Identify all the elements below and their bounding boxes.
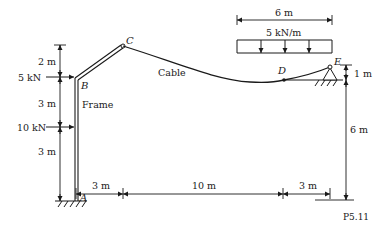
figure-id-label: P5.11 <box>343 212 369 222</box>
dim-label-right-top: 1 m <box>354 68 372 79</box>
cable <box>123 46 330 82</box>
distributed-load <box>237 40 332 53</box>
dim-label-bottom-1: 3 m <box>92 180 110 191</box>
frame-label: Frame <box>82 99 114 110</box>
cable-label: Cable <box>158 67 186 78</box>
dim-left-vertical <box>54 45 66 201</box>
dim-right-vertical <box>315 65 354 200</box>
load-label-distributed: 5 kN/m <box>266 27 301 38</box>
frame-column <box>75 78 78 201</box>
node-label-e: E <box>333 56 342 67</box>
load-label-10kn: 10 kN <box>17 122 46 133</box>
node-label-d: D <box>277 65 286 76</box>
dim-label-left-top: 2 m <box>38 56 56 67</box>
dim-label-bottom-3: 3 m <box>299 180 317 191</box>
dim-label-right-bottom: 6 m <box>350 124 368 135</box>
pin-support-e <box>284 65 343 86</box>
structure-diagram: A B C D E Frame Cable 5 kN 10 kN 5 kN/m … <box>0 0 385 236</box>
load-label-5kn: 5 kN <box>18 72 41 83</box>
frame-inclined-member <box>75 45 123 80</box>
dim-label-left-bottom: 3 m <box>38 146 56 157</box>
node-label-b: B <box>80 80 88 91</box>
dim-label-load-span: 6 m <box>275 7 293 18</box>
node-label-a: A <box>79 192 87 203</box>
dim-label-left-mid: 3 m <box>38 98 56 109</box>
node-label-c: C <box>126 35 134 46</box>
dim-label-bottom-2: 10 m <box>192 180 216 191</box>
